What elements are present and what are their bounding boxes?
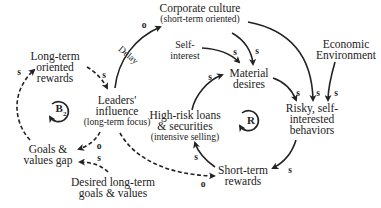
node-material-desires: Material desires	[230, 68, 269, 90]
node-line: Self-	[170, 39, 199, 50]
polarity-label: s	[296, 88, 300, 98]
polarity-label: s	[316, 88, 320, 98]
node-subtitle: (short-term oriented)	[160, 14, 241, 25]
node-line: Environment	[316, 50, 376, 61]
node-subtitle: (intensive selling)	[149, 132, 220, 143]
polarity-label: s	[233, 47, 237, 57]
link-desired-to-gap	[80, 162, 108, 172]
node-line: interest	[170, 50, 199, 61]
node-line: & securities	[149, 121, 220, 132]
node-short-term-rewards: Short-term rewards	[218, 165, 268, 187]
node-long-term-rewards: Long-term oriented rewards	[30, 51, 79, 84]
polarity-label: o	[201, 179, 206, 189]
node-economic-environment: Economic Environment	[316, 39, 376, 61]
node-subtitle: (long-term focus)	[84, 117, 151, 128]
polarity-label: s	[194, 152, 198, 162]
node-line: rewards	[218, 176, 268, 187]
node-line: desires	[230, 79, 269, 90]
node-line: rewards	[30, 73, 79, 84]
node-line: values gap	[24, 155, 73, 166]
link-risky-to-shortterm	[273, 140, 296, 168]
polarity-label: s	[17, 67, 21, 77]
node-leaders-influence: Leaders' influence (long-term focus)	[84, 95, 151, 128]
node-line: goals & values	[71, 188, 155, 199]
causal-loop-diagram: Corporate culture (short-term oriented) …	[0, 0, 381, 208]
node-line: behaviors	[286, 125, 338, 136]
polarity-label: o	[142, 20, 147, 30]
polarity-label: s	[288, 165, 292, 175]
reinforcing-loop-label: R	[247, 114, 255, 126]
polarity-label: s	[208, 72, 212, 82]
node-high-risk-loans: High-risk loans & securities (intensive …	[149, 110, 220, 143]
polarity-label: o	[97, 141, 102, 151]
link-material-to-risky	[273, 78, 296, 100]
polarity-label: s	[102, 70, 106, 80]
node-desired-goals: Desired long-term goals & values	[71, 177, 155, 199]
node-self-interest: Self- interest	[170, 39, 199, 61]
node-title: Corporate culture	[160, 3, 241, 14]
node-risky-behaviors: Risky, self- interested behaviors	[286, 103, 338, 136]
loop-index: 2	[63, 110, 67, 118]
link-loans-to-material	[192, 75, 222, 110]
polarity-label: s	[334, 88, 338, 98]
polarity-label: s	[255, 46, 259, 56]
node-corporate-culture: Corporate culture (short-term oriented)	[160, 3, 241, 25]
polarity-label: s	[97, 153, 101, 163]
node-goals-gap: Goals & values gap	[24, 144, 73, 166]
node-line: influence	[84, 106, 151, 117]
balancing-loop-label: B2	[56, 102, 67, 117]
